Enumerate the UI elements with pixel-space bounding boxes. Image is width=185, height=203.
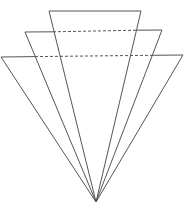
diagram-svg — [0, 0, 185, 203]
front-triangle — [49, 11, 141, 202]
triangle-fan-diagram — [0, 0, 185, 203]
back-triangle — [1, 55, 183, 202]
